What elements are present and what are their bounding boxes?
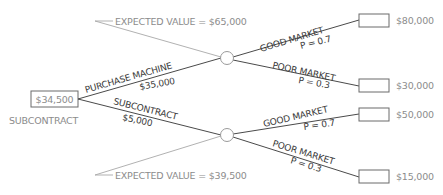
payoff-value: $50,000 bbox=[396, 109, 434, 120]
terminal-box bbox=[359, 79, 389, 92]
chance-node-subcontract: GOOD MARKET P = 0.7 POOR MARKET P = 0.3 bbox=[221, 104, 360, 177]
terminal-box bbox=[359, 108, 389, 121]
terminal-node-30000: $30,000 bbox=[359, 79, 434, 92]
branch-line bbox=[78, 58, 221, 99]
terminal-node-50000: $50,000 bbox=[359, 108, 434, 121]
terminal-node-80000: $80,000 bbox=[359, 14, 434, 27]
branch-purchase-machine: PURCHASE MACHINE $35,000 bbox=[78, 58, 221, 99]
outcome-probability: P = 0.7 bbox=[303, 118, 336, 132]
root-decision-node: $34,500 SUBCONTRACT bbox=[9, 91, 79, 126]
decision-tree-diagram: $34,500 SUBCONTRACT PURCHASE MACHINE $35… bbox=[0, 0, 443, 195]
payoff-value: $30,000 bbox=[396, 80, 434, 91]
payoff-value: $80,000 bbox=[396, 15, 434, 26]
expected-value-label: EXPECTED VALUE = $65,000 bbox=[115, 16, 247, 27]
expected-value-annotation-top: EXPECTED VALUE = $65,000 bbox=[95, 16, 247, 57]
expected-value-annotation-bottom: EXPECTED VALUE = $39,500 bbox=[95, 136, 247, 181]
terminal-box bbox=[359, 170, 389, 183]
chance-node-circle bbox=[221, 52, 234, 65]
root-caption: SUBCONTRACT bbox=[9, 115, 79, 126]
root-value: $34,500 bbox=[36, 94, 74, 105]
branch-subcontract: SUBCONTRACT $5,000 bbox=[78, 96, 221, 135]
expected-value-label: EXPECTED VALUE = $39,500 bbox=[115, 170, 247, 181]
payoff-value: $15,000 bbox=[396, 171, 434, 182]
chance-node-purchase: GOOD MARKET P = 0.7 POOR MARKET P = 0.3 bbox=[221, 20, 360, 90]
terminal-node-15000: $15,000 bbox=[359, 170, 434, 183]
terminal-box bbox=[359, 14, 389, 27]
chance-node-circle bbox=[221, 129, 234, 142]
